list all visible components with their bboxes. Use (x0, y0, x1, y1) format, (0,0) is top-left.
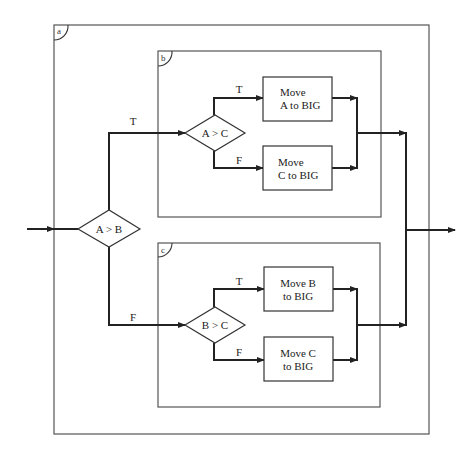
branch-label-bc-false: F (236, 346, 242, 358)
process-line-1: Move (278, 156, 304, 168)
process-line-1: Move C (280, 347, 316, 359)
branch-label-ac-true: T (236, 83, 243, 95)
decision-a-gt-c-label: A > C (202, 127, 228, 139)
branch-label-ab-false: F (130, 311, 136, 323)
process-line-2: to BIG (283, 360, 313, 372)
process-move-a-to-big: Move A to BIG (263, 77, 332, 121)
process-move-b-to-big: Move B to BIG (264, 267, 333, 311)
decision-b-gt-c: B > C (185, 307, 245, 343)
branch-label-ab-true: T (130, 115, 137, 127)
branch-label-bc-true: T (236, 275, 243, 287)
process-move-c-to-big-upper: Move C to BIG (263, 146, 332, 190)
branch-label-ac-false: F (236, 154, 242, 166)
flowchart-canvas: a b c (0, 0, 475, 452)
block-b-tag: b (161, 53, 166, 63)
process-line-2: C to BIG (278, 169, 318, 181)
process-line-1: Move B (280, 277, 316, 289)
block-c-tag: c (161, 245, 165, 255)
decision-b-gt-c-label: B > C (202, 319, 228, 331)
decision-a-gt-b: A > B (78, 210, 140, 247)
decision-a-gt-c: A > C (185, 115, 245, 151)
process-line-1: Move (280, 86, 306, 98)
process-line-2: A to BIG (280, 99, 320, 111)
process-move-c-to-big-lower: Move C to BIG (264, 337, 333, 381)
block-a-tag: a (57, 26, 61, 36)
process-line-2: to BIG (283, 290, 313, 302)
decision-a-gt-b-label: A > B (96, 223, 122, 235)
